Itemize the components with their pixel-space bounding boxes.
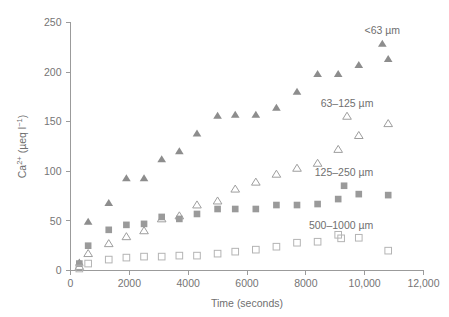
data-point [334, 145, 343, 152]
y-tick-label: 150 [44, 115, 62, 127]
data-point [157, 155, 166, 162]
data-point [252, 178, 261, 185]
data-point [104, 240, 113, 247]
data-point [314, 201, 321, 208]
data-point [84, 218, 93, 225]
data-point [293, 164, 302, 171]
data-point [385, 192, 392, 199]
data-point [294, 202, 301, 209]
series-labels: <63 µm63–125 µm125–250 µm500–1000 µm [309, 24, 400, 241]
data-point [231, 185, 240, 192]
data-point [140, 227, 149, 234]
series-legend-marker-3 [341, 182, 348, 189]
data-point [213, 197, 222, 204]
data-point [273, 202, 280, 209]
data-point [76, 260, 83, 267]
data-point [293, 88, 302, 95]
y-tick-label: 250 [44, 16, 62, 28]
series-legend-marker-1 [378, 40, 387, 47]
data-point [272, 170, 281, 177]
series-label-3: 125–250 µm [315, 166, 374, 178]
data-point [232, 206, 239, 213]
x-tick-label: 2000 [118, 277, 142, 289]
y-tick-label: 50 [50, 215, 62, 227]
series-label-2: 63–125 µm [321, 97, 374, 109]
series-legend-marker-2 [343, 112, 352, 119]
calcium-dissolution-scatter-chart: 0200040006000800010,00012,000 0501001502… [0, 0, 449, 317]
x-tick-label: 4000 [176, 277, 200, 289]
data-point [194, 252, 201, 259]
data-point [140, 174, 149, 181]
data-point [105, 227, 112, 234]
data-point [194, 211, 201, 218]
plot-canvas: 0200040006000800010,00012,000 0501001502… [0, 0, 449, 317]
data-point [385, 247, 392, 254]
data-point [85, 260, 92, 267]
data-point [176, 216, 183, 223]
data-point [355, 234, 362, 241]
series-1-points [75, 55, 393, 265]
data-point [122, 174, 131, 181]
data-point [84, 250, 93, 257]
y-tick-label: 0 [56, 264, 62, 276]
data-point [253, 246, 260, 253]
x-axis-title: Time (seconds) [211, 297, 283, 309]
data-point [354, 61, 363, 68]
y-axis-title: Ca2+ (µeq l−1) [15, 115, 28, 178]
data-point [313, 159, 322, 166]
data-point [105, 256, 112, 263]
data-point [313, 70, 322, 77]
x-tick-label: 12,000 [407, 277, 439, 289]
data-point [158, 253, 165, 260]
data-point [294, 239, 301, 246]
data-point [175, 147, 184, 154]
x-tick-label: 10,000 [349, 277, 381, 289]
y-tick-label: 100 [44, 165, 62, 177]
axes [71, 22, 424, 271]
data-point [123, 222, 130, 229]
data-point [214, 250, 221, 257]
data-point [141, 253, 148, 260]
data-point [141, 221, 148, 228]
data-point [253, 206, 260, 213]
series-2-points [75, 120, 393, 270]
series-label-1: <63 µm [365, 24, 401, 36]
y-tick-label: 200 [44, 66, 62, 78]
data-point [193, 129, 202, 136]
data-point [354, 131, 363, 138]
data-point [158, 214, 165, 221]
series-label-4: 500–1000 µm [309, 219, 374, 231]
data-point [384, 120, 393, 127]
x-axis-ticks: 0200040006000800010,00012,000 [68, 271, 440, 289]
data-point [193, 201, 202, 208]
data-point [122, 233, 131, 240]
data-point [384, 55, 393, 62]
data-point [314, 238, 321, 245]
data-point [176, 252, 183, 259]
data-point [335, 196, 342, 203]
data-point [231, 111, 240, 118]
data-point [334, 70, 343, 77]
data-point [252, 111, 261, 118]
data-point [85, 242, 92, 249]
data-point [123, 254, 130, 261]
x-tick-label: 6000 [235, 277, 259, 289]
data-point [232, 248, 239, 255]
data-point [213, 112, 222, 119]
data-point [214, 206, 221, 213]
data-point [272, 104, 281, 111]
data-point [273, 243, 280, 250]
x-tick-label: 8000 [294, 277, 318, 289]
data-point [355, 191, 362, 198]
data-point [104, 199, 113, 206]
x-tick-label: 0 [68, 277, 74, 289]
y-axis-ticks: 050100150200250 [44, 16, 71, 276]
